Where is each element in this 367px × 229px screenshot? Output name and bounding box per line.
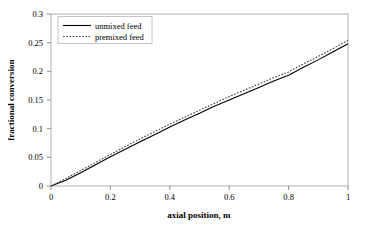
- y-tick-labels: 0 0.05 0.1 0.15 0.2 0.25 0.3: [28, 9, 43, 191]
- y-tick-label: 0.1: [32, 124, 43, 134]
- y-tick-label: 0.3: [32, 9, 43, 19]
- x-tick-label: 1: [346, 192, 350, 202]
- x-tick-label: 0: [49, 192, 53, 202]
- legend-label-unmixed-feed: unmixed feed: [95, 21, 142, 31]
- y-axis-title: fractional conversion: [6, 59, 16, 140]
- y-tick-label: 0: [39, 181, 43, 191]
- x-axis-ticks: [51, 186, 348, 190]
- y-tick-label: 0.25: [28, 38, 43, 48]
- x-axis-title: axial position, m: [167, 210, 231, 220]
- x-tick-label: 0.2: [105, 192, 116, 202]
- series-line-unmixed-feed: [51, 44, 348, 186]
- x-tick-labels: 0 0.2 0.4 0.6 0.8 1: [49, 192, 350, 202]
- legend: unmixed feed premixed feed: [58, 17, 152, 44]
- x-tick-label: 0.4: [164, 192, 175, 202]
- y-tick-label: 0.05: [28, 152, 43, 162]
- x-tick-label: 0.6: [224, 192, 235, 202]
- y-tick-label: 0.2: [32, 66, 43, 76]
- line-chart: 0 0.05 0.1 0.15 0.2 0.25 0.3 0 0.2 0.4 0…: [0, 0, 367, 229]
- legend-label-premixed-feed: premixed feed: [95, 32, 145, 42]
- chart-container: 0 0.05 0.1 0.15 0.2 0.25 0.3 0 0.2 0.4 0…: [0, 0, 367, 229]
- y-axis-ticks: [47, 14, 51, 186]
- y-tick-label: 0.15: [28, 95, 43, 105]
- x-tick-label: 0.8: [283, 192, 294, 202]
